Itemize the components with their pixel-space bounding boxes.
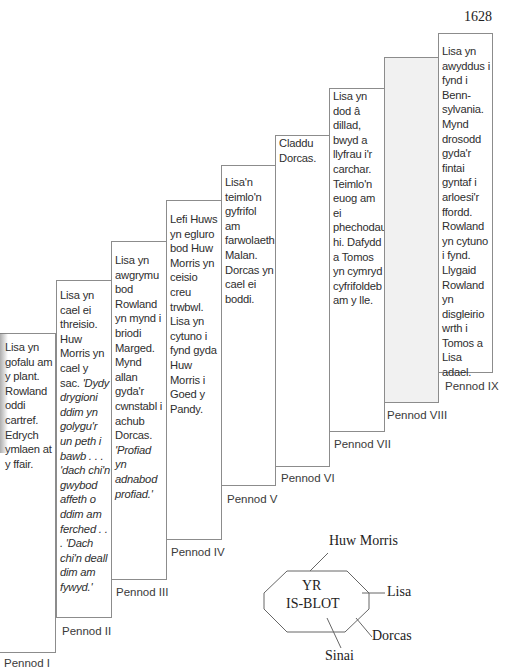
isblot-title-1: YR xyxy=(302,578,321,594)
isblot-spoke-huw-morris: Huw Morris xyxy=(329,533,398,549)
isblot-title-2: IS-BLOT xyxy=(286,596,340,612)
isblot-spoke-dorcas: Dorcas xyxy=(372,628,412,644)
spoke-huw-morris xyxy=(310,553,328,571)
isblot-spoke-sinai: Sinai xyxy=(325,648,354,664)
isblot-spoke-lisa: Lisa xyxy=(387,584,411,600)
spoke-dorcas xyxy=(356,618,372,637)
